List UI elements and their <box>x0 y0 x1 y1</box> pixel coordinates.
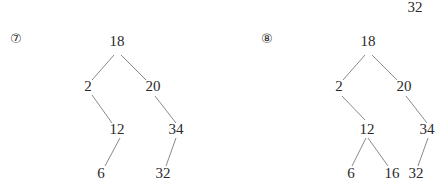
floating-node-32: 32 <box>408 0 423 15</box>
tree-node-6: 6 <box>97 165 105 181</box>
tree-node-32: 32 <box>409 165 424 181</box>
tree-edge <box>342 96 365 120</box>
tree-edge <box>352 138 366 166</box>
tree-edge <box>92 95 112 123</box>
tree-edges <box>92 55 176 166</box>
tree-node-20: 20 <box>397 78 412 94</box>
tree-step-7: ⑦ 182201234632 <box>10 31 184 181</box>
tree-edge <box>343 55 365 80</box>
tree-node-2: 2 <box>84 78 92 94</box>
tree-node-16: 16 <box>385 165 401 181</box>
tree-edge <box>406 96 427 123</box>
tree-node-18: 18 <box>361 33 376 49</box>
tree-node-12: 12 <box>360 121 375 137</box>
step-number-label: ⑦ <box>10 31 22 46</box>
tree-edge <box>155 96 176 123</box>
bst-diagram: 32 ⑦ 182201234632 ⑧ 18220123461632 <box>0 0 445 183</box>
tree-edge <box>166 138 176 166</box>
tree-node-34: 34 <box>169 121 185 137</box>
tree-edge <box>92 55 114 80</box>
tree-nodes: 18220123461632 <box>335 33 435 181</box>
tree-edge <box>121 55 146 80</box>
tree-node-6: 6 <box>347 165 355 181</box>
tree-node-34: 34 <box>420 121 436 137</box>
step-number-label: ⑧ <box>261 31 273 46</box>
tree-step-8: ⑧ 18220123461632 <box>261 31 435 181</box>
tree-edge <box>372 55 397 80</box>
tree-node-18: 18 <box>110 33 125 49</box>
tree-edge <box>418 138 428 166</box>
tree-node-2: 2 <box>335 78 343 94</box>
tree-node-32: 32 <box>156 165 171 181</box>
tree-edge <box>105 138 120 166</box>
tree-edges <box>342 55 428 166</box>
tree-node-12: 12 <box>110 121 125 137</box>
tree-edge <box>368 138 388 166</box>
tree-node-20: 20 <box>146 78 161 94</box>
